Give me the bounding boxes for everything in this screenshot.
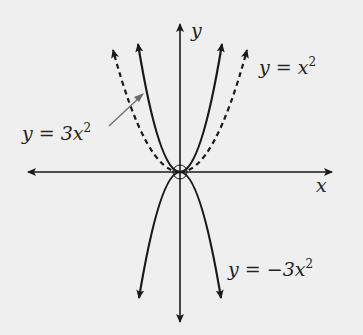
label-var: y (259, 56, 270, 78)
label-rhs: −3x (267, 258, 306, 280)
y-axis-label-text: y (191, 19, 202, 41)
label-y-equals-3x-squared: y = 3x2 (22, 122, 91, 143)
pointer-arrow-icon (109, 93, 144, 126)
label-var: y (228, 258, 239, 280)
label-var: y (22, 122, 33, 144)
label-rhs: x (298, 56, 309, 78)
x-axis-label-text: x (316, 174, 327, 196)
label-equals: = (39, 122, 55, 144)
label-rhs: 3x (61, 122, 84, 144)
label-exponent: 2 (84, 121, 92, 135)
label-y-equals-x-squared: y = x2 (259, 56, 316, 77)
label-exponent: 2 (305, 257, 313, 271)
label-equals: = (276, 56, 292, 78)
label-y-equals-neg-3x-squared: y = −3x2 (228, 258, 313, 279)
x-axis-label: x (316, 176, 327, 195)
label-equals: = (245, 258, 261, 280)
label-exponent: 2 (308, 55, 316, 69)
y-axis-label: y (191, 21, 202, 40)
parabola-diagram (0, 0, 363, 335)
